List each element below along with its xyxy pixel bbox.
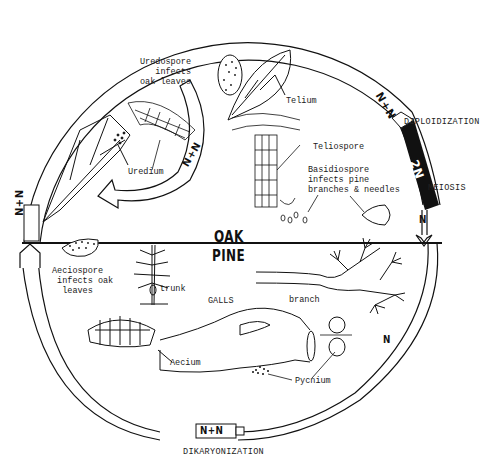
- label-galls: GALLS: [208, 296, 234, 306]
- label-uredospore: Uredospore infects oak leaves: [140, 57, 191, 87]
- label-uredium: Uredium: [128, 167, 164, 177]
- stage-diploidization: DIPLOIDIZATION: [404, 117, 480, 127]
- label-telium: Telium: [286, 96, 317, 106]
- uredospore-cycle-arrow-icon: [98, 80, 204, 208]
- label-branch: branch: [289, 295, 320, 305]
- label-aecium: Aecium: [170, 358, 201, 368]
- stage-meiosis: MEIOSIS: [428, 183, 466, 193]
- pine-branch-illustration: [256, 238, 405, 314]
- label-pycnium: Pycnium: [295, 376, 331, 386]
- gall-illustration: [88, 308, 315, 372]
- host-label-oak: OAK: [214, 228, 244, 246]
- aeciospore-illustration: [62, 239, 98, 256]
- label-teliospore: Teliospore: [313, 142, 364, 152]
- label-trunk: trunk: [160, 284, 186, 294]
- basidiospore-illustration: [362, 205, 390, 225]
- host-label-pine: PINE: [212, 247, 245, 265]
- ploidy-haploid-after-meiosis: N: [419, 213, 427, 226]
- telium-cross-section: [232, 113, 318, 223]
- label-basidiospore: Basidiospore infects pine branches & nee…: [308, 165, 400, 195]
- ploidy-haploid-pine: N: [383, 333, 391, 346]
- stage-dikaryonization: DIKARYONIZATION: [183, 447, 264, 457]
- return-arrow-icon: [20, 244, 40, 268]
- uredospore-illustration: [218, 55, 242, 95]
- pine-tree-illustration: [134, 245, 170, 305]
- ploidy-left: N+N: [14, 189, 25, 216]
- label-aeciospore: Aeciospore infects oak leaves: [52, 266, 113, 296]
- ploidy-bottom: N+N: [200, 424, 223, 437]
